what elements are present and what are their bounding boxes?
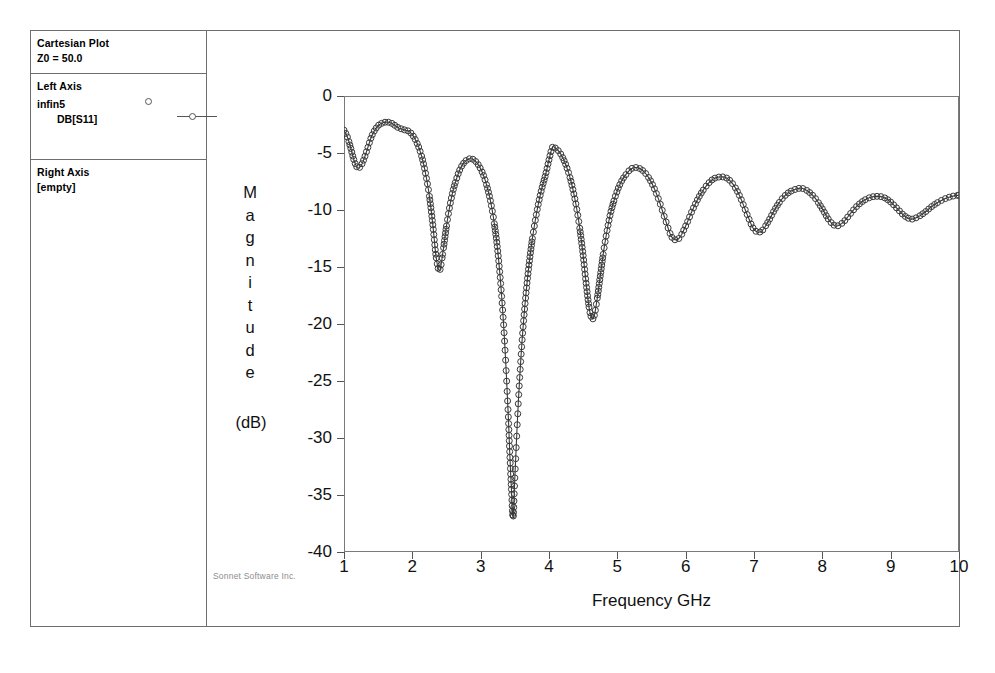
watermark: Sonnet Software Inc. — [213, 571, 296, 581]
legend-row-project[interactable]: infin5 — [37, 94, 206, 109]
legend-section-left-axis: Left Axis infin5 DB[S11] — [31, 74, 206, 160]
y-axis-title-char: e — [233, 361, 267, 384]
y-axis-tick-label: 0 — [276, 87, 332, 104]
x-axis-tick-label: 4 — [529, 558, 569, 576]
y-axis-tick-label: -10 — [276, 201, 332, 218]
y-axis-tick — [337, 267, 344, 268]
y-axis-title-char: t — [233, 294, 267, 317]
x-axis-tick-label: 2 — [392, 558, 432, 576]
y-axis-tick — [337, 438, 344, 439]
s11-curve — [344, 96, 959, 552]
y-axis-title-char: u — [233, 316, 267, 339]
legend-section-right-axis: Right Axis [empty] — [31, 160, 206, 201]
left-axis-header: Left Axis — [37, 79, 206, 94]
y-axis-title: Magnitude — [233, 181, 267, 384]
chart-area: Magnitude (dB) Frequency GHz Sonnet Soft… — [207, 31, 959, 626]
legend-row-trace[interactable]: DB[S11] — [37, 109, 206, 124]
y-axis-tick-label: -20 — [276, 315, 332, 332]
y-axis-tick — [337, 210, 344, 211]
cartesian-plot-window: Cartesian Plot Z0 = 50.0 Left Axis infin… — [30, 30, 960, 627]
y-axis-tick-label: -25 — [276, 372, 332, 389]
y-axis-title-char: n — [233, 249, 267, 272]
y-axis-tick — [337, 153, 344, 154]
y-axis-title-char: a — [233, 204, 267, 227]
y-axis-tick-label: -5 — [276, 144, 332, 161]
x-axis-tick-label: 5 — [597, 558, 637, 576]
legend-section-title: Cartesian Plot Z0 = 50.0 — [31, 31, 206, 74]
y-axis-tick — [337, 96, 344, 97]
y-axis-tick-label: -15 — [276, 258, 332, 275]
y-axis-title-char: i — [233, 271, 267, 294]
y-axis-tick-label: -30 — [276, 429, 332, 446]
x-axis-tick-label: 6 — [666, 558, 706, 576]
x-axis-tick-label: 9 — [871, 558, 911, 576]
y-axis-title-char: d — [233, 339, 267, 362]
x-axis-tick-label: 3 — [461, 558, 501, 576]
y-axis-tick — [337, 552, 344, 553]
x-axis-tick-label: 7 — [734, 558, 774, 576]
x-axis-tick-label: 1 — [324, 558, 364, 576]
x-axis-tick-label: 8 — [802, 558, 842, 576]
y-axis-title-char: M — [233, 181, 267, 204]
y-axis-tick-label: -35 — [276, 486, 332, 503]
x-axis-tick-label: 10 — [939, 558, 979, 576]
y-axis-title-char: g — [233, 226, 267, 249]
open-circle-marker-icon — [133, 94, 177, 109]
y-axis-unit: (dB) — [227, 413, 275, 432]
trace-label: DB[S11] — [57, 113, 97, 125]
x-axis-title: Frequency GHz — [344, 591, 959, 611]
screenshot-root: Cartesian Plot Z0 = 50.0 Left Axis infin… — [0, 0, 995, 673]
right-axis-value[interactable]: [empty] — [37, 180, 206, 195]
impedance-value[interactable]: Z0 = 50.0 — [37, 51, 206, 66]
right-axis-header: Right Axis — [37, 165, 206, 180]
y-axis-tick — [337, 495, 344, 496]
plot-title: Cartesian Plot — [37, 36, 206, 51]
y-axis-tick — [337, 381, 344, 382]
legend-panel: Cartesian Plot Z0 = 50.0 Left Axis infin… — [31, 31, 207, 626]
y-axis-tick — [337, 324, 344, 325]
